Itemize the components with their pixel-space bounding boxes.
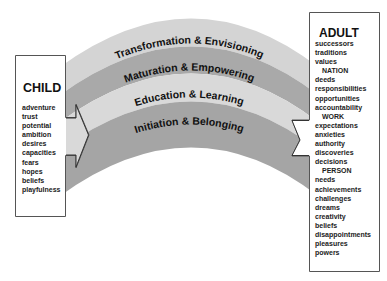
child-item: playfulness (22, 185, 61, 194)
adult-section-nation: NATION (315, 66, 371, 75)
adult-title: ADULT (319, 26, 359, 40)
child-item: ambition (22, 130, 61, 139)
adult-item: dreams (315, 203, 371, 212)
child-item: beliefs (22, 176, 61, 185)
adult-item: responsibilities (315, 84, 371, 93)
child-item: capacities (22, 148, 61, 157)
child-list: adventure trust potential ambition desir… (22, 103, 61, 194)
adult-item: decisions (315, 157, 371, 166)
child-item: desires (22, 139, 61, 148)
adult-item: authority (315, 139, 371, 148)
adult-item: opportunities (315, 94, 371, 103)
child-item: adventure (22, 103, 61, 112)
child-box: CHILD adventure trust potential ambition… (15, 55, 66, 217)
adult-item: anxieties (315, 130, 371, 139)
adult-section-person: PERSON (315, 166, 371, 175)
adult-item: deeds (315, 75, 371, 84)
adult-item: accountability (315, 103, 371, 112)
adult-item: needs (315, 175, 371, 184)
adult-section-work: WORK (315, 112, 371, 121)
child-item: trust (22, 112, 61, 121)
adult-item: disappointments (315, 230, 371, 239)
adult-item: expectations (315, 121, 371, 130)
adult-item: successors (315, 39, 371, 48)
adult-box: ADULT successors traditions values NATIO… (309, 12, 380, 272)
adult-item: pleasures (315, 239, 371, 248)
child-item: potential (22, 121, 61, 130)
adult-item: creativity (315, 212, 371, 221)
adult-item: discoveries (315, 148, 371, 157)
child-title: CHILD (23, 81, 61, 95)
adult-item: values (315, 57, 371, 66)
adult-item: challenges (315, 194, 371, 203)
adult-item: traditions (315, 48, 371, 57)
adult-item: beliefs (315, 221, 371, 230)
adult-item: powers (315, 248, 371, 257)
adult-item: achievements (315, 185, 371, 194)
child-item: hopes (22, 167, 61, 176)
adult-list: successors traditions values NATION deed… (315, 39, 371, 257)
child-item: fears (22, 158, 61, 167)
